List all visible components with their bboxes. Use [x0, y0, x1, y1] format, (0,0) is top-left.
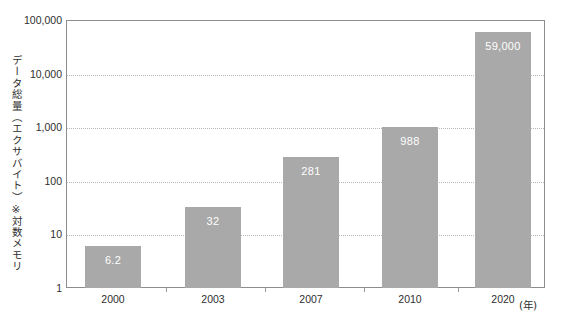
bar-2000: 6.2: [85, 246, 141, 288]
y-tick-label: 10,000: [2, 68, 62, 80]
bar-value-label: 59,000: [475, 40, 531, 52]
y-axis-tick-labels: 1 10 100 1,000 10,000 100,000: [0, 20, 62, 288]
bar-value-label: 32: [185, 215, 241, 227]
x-minor-tick: [166, 288, 167, 292]
bar-2007: 281: [283, 157, 339, 288]
y-tick-label: 100,000: [2, 14, 62, 26]
y-tick-label: 10: [2, 228, 62, 240]
bar-value-label: 988: [382, 135, 438, 147]
y-tick-label: 1: [2, 282, 62, 294]
x-tick-label: 2000: [85, 293, 141, 305]
bar-value-label: 6.2: [85, 254, 141, 266]
bar-2020: 59,000: [475, 32, 531, 288]
x-minor-tick: [265, 288, 266, 292]
bar-value-label: 281: [283, 165, 339, 177]
bars-layer: 6.2 32 281 988 59,000: [66, 20, 545, 288]
x-axis-unit-label: (年): [519, 297, 537, 312]
chart-container: データ総量（エクサバイト）※対数メモリ 1 10 100 1,000 10,00…: [0, 0, 561, 319]
x-minor-tick: [458, 288, 459, 292]
y-tick-label: 100: [2, 175, 62, 187]
x-tick-label: 2003: [185, 293, 241, 305]
x-tick-label: 2010: [382, 293, 438, 305]
x-axis-tick-labels: 2000 2003 2007 2010 2020: [66, 293, 545, 313]
y-tick-label: 1,000: [2, 121, 62, 133]
bar-2003: 32: [185, 207, 241, 288]
x-tick-label: 2007: [283, 293, 339, 305]
bar-2010: 988: [382, 127, 438, 288]
x-minor-tick: [364, 288, 365, 292]
